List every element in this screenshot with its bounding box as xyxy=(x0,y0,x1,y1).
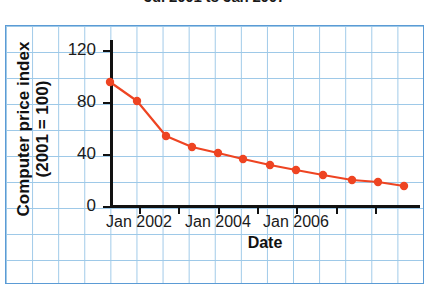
series-markers xyxy=(106,78,408,190)
data-point xyxy=(106,78,114,86)
data-point xyxy=(239,155,247,163)
data-point xyxy=(400,182,408,190)
data-point xyxy=(162,132,170,140)
data-point xyxy=(292,166,300,174)
data-point xyxy=(133,97,141,105)
chart-plot-area: 120 80 40 0 Jan 2002 Jan 2004 Jan 2006 C… xyxy=(0,0,429,288)
data-series-computer-price-index xyxy=(0,0,429,288)
data-point xyxy=(348,176,356,184)
data-point xyxy=(374,178,382,186)
data-point xyxy=(319,171,327,179)
data-point xyxy=(266,161,274,169)
series-line xyxy=(110,82,404,186)
data-point xyxy=(214,149,222,157)
data-point xyxy=(188,143,196,151)
